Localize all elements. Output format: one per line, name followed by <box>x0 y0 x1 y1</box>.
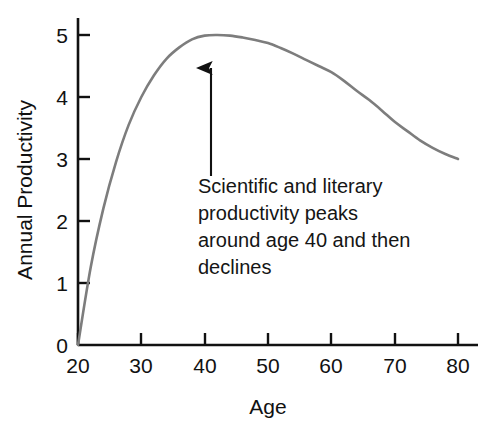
annotation-line-3: around age 40 and then <box>198 229 410 251</box>
y-tick-label-4: 4 <box>56 86 68 109</box>
x-tick-label-60: 60 <box>319 354 342 377</box>
x-tick-label-50: 50 <box>256 354 279 377</box>
y-tick-label-1: 1 <box>56 272 68 295</box>
y-tick-label-2: 2 <box>56 210 68 233</box>
x-axis-title: Age <box>249 395 286 418</box>
x-tick-label-70: 70 <box>383 354 406 377</box>
y-axis-title: Annual Productivity <box>13 100 36 280</box>
y-tick-label-5: 5 <box>56 24 68 47</box>
annotation-line-1: Scientific and literary <box>198 175 383 197</box>
x-tick-label-80: 80 <box>446 354 469 377</box>
x-tick-label-20: 20 <box>66 354 89 377</box>
y-tick-label-3: 3 <box>56 148 68 171</box>
annotation-line-2: productivity peaks <box>198 202 358 224</box>
x-tick-label-40: 40 <box>193 354 216 377</box>
x-tick-label-30: 30 <box>129 354 152 377</box>
productivity-vs-age-chart: 5 4 3 2 1 0 Annual Productivity <box>0 0 497 440</box>
annotation-line-4: declines <box>198 256 271 278</box>
chart-figure: 5 4 3 2 1 0 Annual Productivity <box>0 0 497 440</box>
